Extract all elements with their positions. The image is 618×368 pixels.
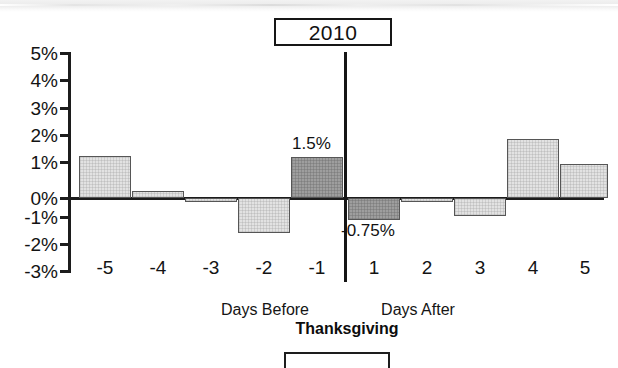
x-axis-label-plus3: 3 xyxy=(453,258,507,277)
data-label-day-plus1: -0.75% xyxy=(341,222,395,239)
data-label-day-minus1: 1.5% xyxy=(292,135,331,152)
y-tick-mark-4 xyxy=(60,79,71,82)
x-axis-label-plus2: 2 xyxy=(400,258,454,277)
y-axis-label-4: 4% xyxy=(4,71,58,90)
x-axis-label-minus3: -3 xyxy=(184,258,238,277)
y-axis-label-neg2: -2% xyxy=(4,235,58,254)
caption-thanksgiving: Thanksgiving xyxy=(271,321,423,337)
y-axis-label-3: 3% xyxy=(4,99,58,118)
y-tick-mark-5 xyxy=(60,52,71,55)
caption-days-after: Days After xyxy=(362,302,474,318)
bar-day-minus3[interactable] xyxy=(185,198,237,202)
bottom-legend-box-cropped xyxy=(284,352,390,368)
y-tick-mark-neg1 xyxy=(60,216,71,219)
caption-days-before: Days Before xyxy=(205,302,325,318)
thanksgiving-divider-line xyxy=(344,52,347,282)
y-tick-mark-0 xyxy=(60,197,71,200)
x-axis-label-minus5: -5 xyxy=(78,258,132,277)
bar-day-minus4[interactable] xyxy=(132,191,184,198)
bar-day-minus1[interactable] xyxy=(291,157,343,198)
y-axis-label-neg1: -1% xyxy=(4,208,58,227)
y-tick-mark-neg2 xyxy=(60,243,71,246)
x-axis-label-minus2: -2 xyxy=(237,258,291,277)
x-axis-label-plus5: 5 xyxy=(558,258,612,277)
bar-day-plus2[interactable] xyxy=(401,198,453,202)
x-axis-label-minus1: -1 xyxy=(290,258,344,277)
y-axis-label-0: 0% xyxy=(4,189,58,208)
bar-day-minus2[interactable] xyxy=(238,198,290,233)
x-axis-label-minus4: -4 xyxy=(131,258,185,277)
y-axis-label-neg3: -3% xyxy=(4,262,58,281)
y-axis-label-1: 1% xyxy=(4,153,58,172)
y-tick-mark-1 xyxy=(60,161,71,164)
x-axis-label-plus4: 4 xyxy=(506,258,560,277)
y-axis-label-2: 2% xyxy=(4,126,58,145)
x-axis-label-plus1: 1 xyxy=(347,258,401,277)
bar-day-plus1[interactable] xyxy=(348,198,400,220)
bar-day-plus3[interactable] xyxy=(454,198,506,216)
y-tick-mark-neg3 xyxy=(60,270,71,273)
bar-day-plus4[interactable] xyxy=(507,139,559,198)
y-tick-mark-3 xyxy=(60,107,71,110)
bar-day-minus5[interactable] xyxy=(79,156,131,198)
y-axis-label-5: 5% xyxy=(4,44,58,63)
bar-day-plus5[interactable] xyxy=(560,164,608,198)
y-tick-mark-2 xyxy=(60,134,71,137)
